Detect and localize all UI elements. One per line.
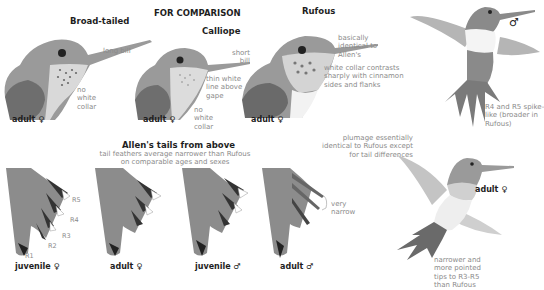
note-long-bill: long bill [103, 47, 121, 55]
age-label-calliope: adult ♀ [143, 115, 175, 124]
tail-juvenile-female [6, 168, 76, 258]
tails-section-subtitle: tail feathers average narrower than Rufo… [95, 150, 255, 167]
note-no-white-collar-calliope: no white collar [194, 106, 224, 131]
male-sex-symbol: ♂ [509, 16, 519, 29]
age-label-tail-adult-female: adult ♀ [110, 262, 142, 271]
age-label-tail-adult-male: adult ♂ [280, 262, 313, 271]
age-label-tail-juvenile-male: juvenile ♂ [195, 262, 241, 271]
label-r4: R4 [70, 216, 79, 224]
comparison-title: FOR COMPARISON [154, 8, 241, 18]
note-r4-r5-spike-like: R4 and R5 spike- like (broader in Rufous… [485, 103, 544, 128]
age-label-tail-juvenile-female: juvenile ♀ [15, 262, 59, 271]
label-r2: R2 [48, 242, 57, 250]
tail-adult-female [95, 168, 165, 258]
tail-adult-male [262, 168, 332, 258]
age-label-flying-female: adult ♀ [475, 185, 507, 194]
tail-juvenile-male [182, 168, 252, 258]
note-basically-identical: basically identical to Allen's [338, 34, 400, 59]
note-white-collar-contrasts: white collar contrasts sharply with cinn… [324, 64, 406, 89]
note-no-white-collar-broad-tailed: no white collar [77, 86, 107, 111]
label-r1: R1 [25, 252, 34, 260]
age-label-broad-tailed: adult ♀ [12, 115, 44, 124]
flying-female-allens-illustration [392, 150, 522, 260]
species-label-rufous: Rufous [302, 6, 335, 16]
label-r5: R5 [72, 196, 81, 204]
label-r3: R3 [62, 232, 71, 240]
age-label-rufous: adult ♀ [251, 115, 283, 124]
tails-section-title: Allen's tails from above [122, 140, 235, 150]
note-narrower-pointed-tips: narrower and more pointed tips to R3-R5 … [434, 256, 481, 290]
note-very-narrow: very narrow [331, 200, 361, 217]
